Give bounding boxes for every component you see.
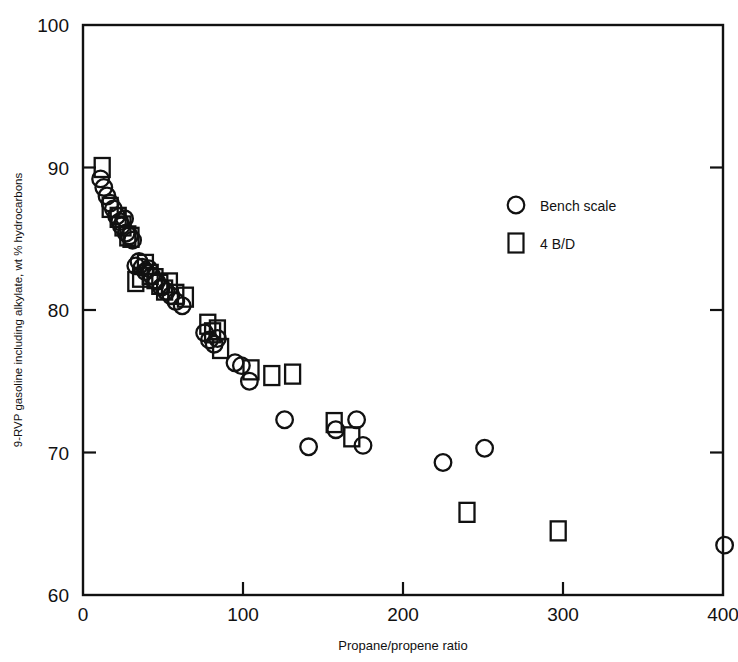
y-axis-title: 9-RVP gasoline including alkylate, wt % … <box>12 173 24 448</box>
y-tick-label-80: 80 <box>48 300 69 321</box>
x-tick-label-300: 300 <box>547 604 579 625</box>
y-tick-label-90: 90 <box>48 158 69 179</box>
x-tick-label-0: 0 <box>78 604 89 625</box>
x-tick-label-200: 200 <box>387 604 419 625</box>
y-tick-label-60: 60 <box>48 585 69 606</box>
x-axis-title: Propane/propene ratio <box>338 638 467 653</box>
chart-canvas: 0100200300400 60708090100 Propane/propen… <box>0 0 738 662</box>
x-tick-label-100: 100 <box>227 604 259 625</box>
y-tick-label-100: 100 <box>37 15 69 36</box>
chart-background <box>0 0 738 662</box>
y-tick-label-70: 70 <box>48 443 69 464</box>
legend-label-bench-scale: Bench scale <box>540 198 616 214</box>
legend-label-4-b-d: 4 B/D <box>540 236 575 252</box>
x-tick-label-400: 400 <box>707 604 738 625</box>
scatter-chart-figure: 0100200300400 60708090100 Propane/propen… <box>0 0 738 662</box>
